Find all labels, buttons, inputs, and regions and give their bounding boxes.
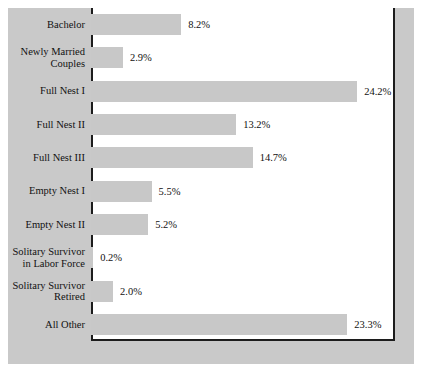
bar-value-label: 2.0% — [120, 286, 142, 297]
bar-value-label: 14.7% — [260, 152, 287, 163]
bar-track: 5.5% — [91, 174, 414, 207]
bar-track: 13.2% — [91, 108, 414, 141]
bar — [91, 247, 93, 268]
bar-track: 23.3% — [91, 308, 414, 341]
bar-value-label: 23.3% — [354, 319, 381, 330]
category-label: Full Nest II — [8, 119, 91, 131]
bar-row: Solitary Survivor in Labor Force0.2% — [8, 241, 414, 274]
bar-value-label: 24.2% — [364, 86, 391, 97]
bar-value-label: 13.2% — [243, 119, 270, 130]
category-label: Full Nest I — [8, 85, 91, 97]
category-label: Empty Nest II — [8, 219, 91, 231]
bar-row: Solitary Survivor Retired2.0% — [8, 274, 414, 307]
bar-row: Empty Nest I5.5% — [8, 174, 414, 207]
bar-track: 24.2% — [91, 75, 414, 108]
category-label: All Other — [8, 319, 91, 331]
bar-track: 2.0% — [91, 274, 414, 307]
bar-row: Full Nest III14.7% — [8, 141, 414, 174]
bar-row: Bachelor8.2% — [8, 8, 414, 41]
bar-value-label: 0.2% — [100, 252, 122, 263]
bar — [91, 214, 148, 235]
bar — [91, 281, 113, 302]
bar-track: 14.7% — [91, 141, 414, 174]
category-label: Full Nest III — [8, 152, 91, 164]
bar — [91, 314, 347, 335]
bar-track: 2.9% — [91, 41, 414, 74]
bar-track: 8.2% — [91, 8, 414, 41]
category-label: Empty Nest I — [8, 185, 91, 197]
bar — [91, 181, 152, 202]
chart-figure: Bachelor8.2%Newly Married Couples2.9%Ful… — [0, 0, 422, 371]
bar — [91, 114, 236, 135]
bar — [91, 147, 253, 168]
category-label: Solitary Survivor Retired — [8, 280, 91, 303]
bar — [91, 14, 181, 35]
bar-value-label: 5.2% — [155, 219, 177, 230]
bar-row: Full Nest II13.2% — [8, 108, 414, 141]
bar-value-label: 8.2% — [188, 19, 210, 30]
category-label: Newly Married Couples — [8, 46, 91, 69]
bar-rows: Bachelor8.2%Newly Married Couples2.9%Ful… — [8, 8, 414, 341]
bar-track: 0.2% — [91, 241, 414, 274]
bar-row: Newly Married Couples2.9% — [8, 41, 414, 74]
category-label: Bachelor — [8, 19, 91, 31]
bar-track: 5.2% — [91, 208, 414, 241]
category-label: Solitary Survivor in Labor Force — [8, 246, 91, 269]
bar-value-label: 2.9% — [130, 52, 152, 63]
bar — [91, 81, 357, 102]
bar — [91, 47, 123, 68]
bar-value-label: 5.5% — [159, 186, 181, 197]
bar-row: All Other23.3% — [8, 308, 414, 341]
bar-row: Full Nest I24.2% — [8, 75, 414, 108]
bar-row: Empty Nest II5.2% — [8, 208, 414, 241]
